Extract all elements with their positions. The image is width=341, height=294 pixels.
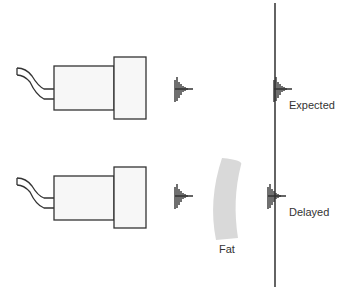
bottom-transducer-body (54, 176, 114, 220)
delayed-label: Delayed (289, 206, 329, 218)
ultrasound-delay-diagram (0, 0, 341, 294)
bottom-transducer (17, 167, 146, 228)
top-transducer (17, 57, 146, 119)
delayed-echo-pulse-icon (268, 184, 286, 209)
bottom-emitted-pulse-icon (175, 184, 193, 209)
top-transducer-cable (17, 68, 54, 99)
top-transducer-head (114, 57, 146, 119)
top-emitted-pulse-icon (175, 77, 193, 102)
top-transducer-body (54, 66, 114, 110)
bottom-transducer-head (114, 167, 146, 228)
fat-layer (213, 158, 241, 240)
expected-label: Expected (289, 99, 335, 111)
fat-label: Fat (219, 243, 235, 255)
bottom-transducer-cable (17, 178, 54, 208)
